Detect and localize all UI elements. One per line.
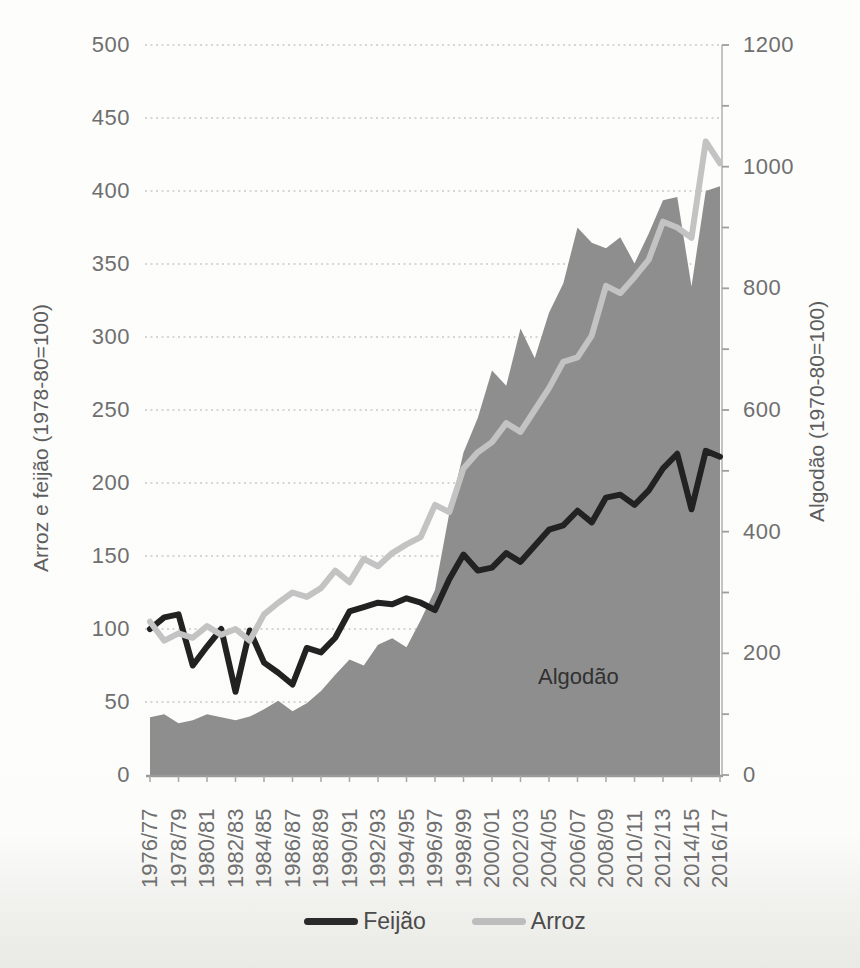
left-axis-tick-label-300: 300 bbox=[42, 324, 130, 350]
x-axis-tick-label-2006-07: 2006/07 bbox=[567, 808, 589, 888]
x-axis-tick-label-2004-05: 2004/05 bbox=[538, 808, 560, 888]
left-axis-tick-label-0: 0 bbox=[42, 762, 130, 788]
x-axis-tick-label-1992-93: 1992/93 bbox=[367, 808, 389, 888]
right-axis-tick-label-0: 0 bbox=[743, 762, 838, 788]
feijao-line-swatch bbox=[304, 918, 358, 925]
x-axis-tick-label-1978-79: 1978/79 bbox=[168, 808, 190, 888]
legend: Feijão Arroz bbox=[0, 903, 860, 939]
x-axis-tick-label-1980-81: 1980/81 bbox=[196, 808, 218, 888]
x-axis-tick-label-1986-87: 1986/87 bbox=[282, 808, 304, 888]
x-axis-tick-label-1984-85: 1984/85 bbox=[253, 808, 275, 888]
left-axis-tick-label-250: 250 bbox=[42, 397, 130, 423]
x-axis-tick-label-1998-99: 1998/99 bbox=[453, 808, 475, 888]
left-axis-tick-label-100: 100 bbox=[42, 616, 130, 642]
left-axis-tick-label-200: 200 bbox=[42, 470, 130, 496]
area-series-label: Algodão bbox=[538, 664, 619, 690]
right-axis-tick-label-600: 600 bbox=[743, 397, 838, 423]
left-axis-tick-label-450: 450 bbox=[42, 105, 130, 131]
legend-label-feijao: Feijão bbox=[363, 908, 426, 935]
x-axis-tick-label-2012-13: 2012/13 bbox=[652, 808, 674, 888]
left-axis-tick-label-400: 400 bbox=[42, 178, 130, 204]
left-axis-tick-label-150: 150 bbox=[42, 543, 130, 569]
x-axis-tick-label-2000-01: 2000/01 bbox=[481, 808, 503, 888]
x-axis-tick-label-2008-09: 2008/09 bbox=[595, 808, 617, 888]
legend-item-arroz: Arroz bbox=[472, 908, 586, 935]
x-axis-tick-label-1988-89: 1988/89 bbox=[310, 808, 332, 888]
x-axis-tick-label-1976-77: 1976/77 bbox=[139, 808, 161, 888]
x-axis-tick-label-1996-97: 1996/97 bbox=[424, 808, 446, 888]
x-axis-tick-label-1994-95: 1994/95 bbox=[396, 808, 418, 888]
right-axis-tick-label-1200: 1200 bbox=[743, 32, 838, 58]
x-axis-tick-label-2016-17: 2016/17 bbox=[709, 808, 731, 888]
right-axis-tick-label-400: 400 bbox=[743, 519, 838, 545]
x-axis-tick-label-2010-11: 2010/11 bbox=[624, 810, 646, 888]
x-axis-tick-label-2014-15: 2014/15 bbox=[681, 808, 703, 888]
left-axis-tick-label-50: 50 bbox=[42, 689, 130, 715]
legend-item-feijao: Feijão bbox=[304, 908, 426, 935]
right-axis-tick-label-800: 800 bbox=[743, 275, 838, 301]
arroz-line-swatch bbox=[472, 918, 526, 925]
left-axis-tick-label-350: 350 bbox=[42, 251, 130, 277]
x-axis-tick-label-2002-03: 2002/03 bbox=[510, 808, 532, 888]
x-axis-tick-label-1982-83: 1982/83 bbox=[225, 808, 247, 888]
right-axis-tick-label-1000: 1000 bbox=[743, 154, 838, 180]
right-axis-tick-label-200: 200 bbox=[743, 640, 838, 666]
x-axis-tick-label-1990-91: 1990/91 bbox=[339, 808, 361, 888]
chart-figure: Arroz e feijão (1978-80=100) Algodão (19… bbox=[0, 0, 860, 968]
left-axis-tick-label-500: 500 bbox=[42, 32, 130, 58]
legend-label-arroz: Arroz bbox=[531, 908, 586, 935]
